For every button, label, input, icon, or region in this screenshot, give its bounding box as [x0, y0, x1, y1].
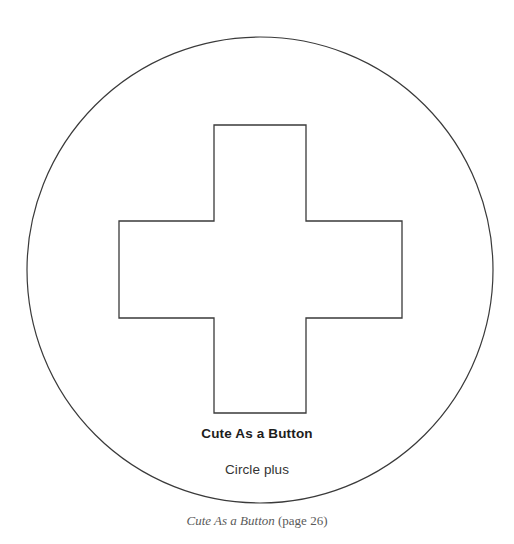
pattern-page: Cute As a Button Circle plus Cute As a B…	[0, 0, 514, 544]
pattern-illustration	[0, 0, 514, 544]
